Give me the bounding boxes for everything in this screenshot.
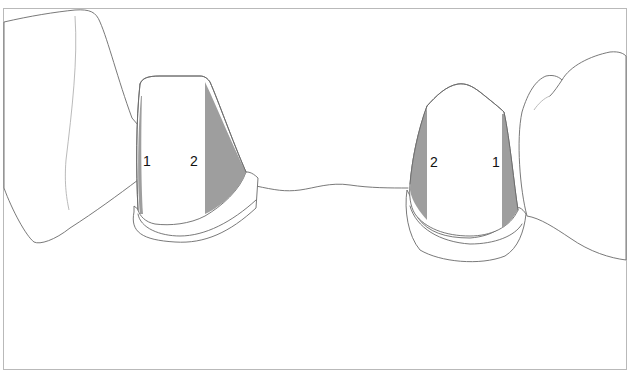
left-adjacent-tooth <box>4 10 138 243</box>
dental-illustration <box>0 0 633 377</box>
right-surface-2-label: 2 <box>430 155 438 169</box>
left-surface-1-label: 1 <box>143 154 151 168</box>
gingival-line <box>256 184 408 191</box>
right-preparation <box>406 84 526 262</box>
right-adjacent-tooth <box>519 52 626 260</box>
left-surface-2-label: 2 <box>190 154 198 168</box>
right-surface-1-label: 1 <box>492 155 500 169</box>
